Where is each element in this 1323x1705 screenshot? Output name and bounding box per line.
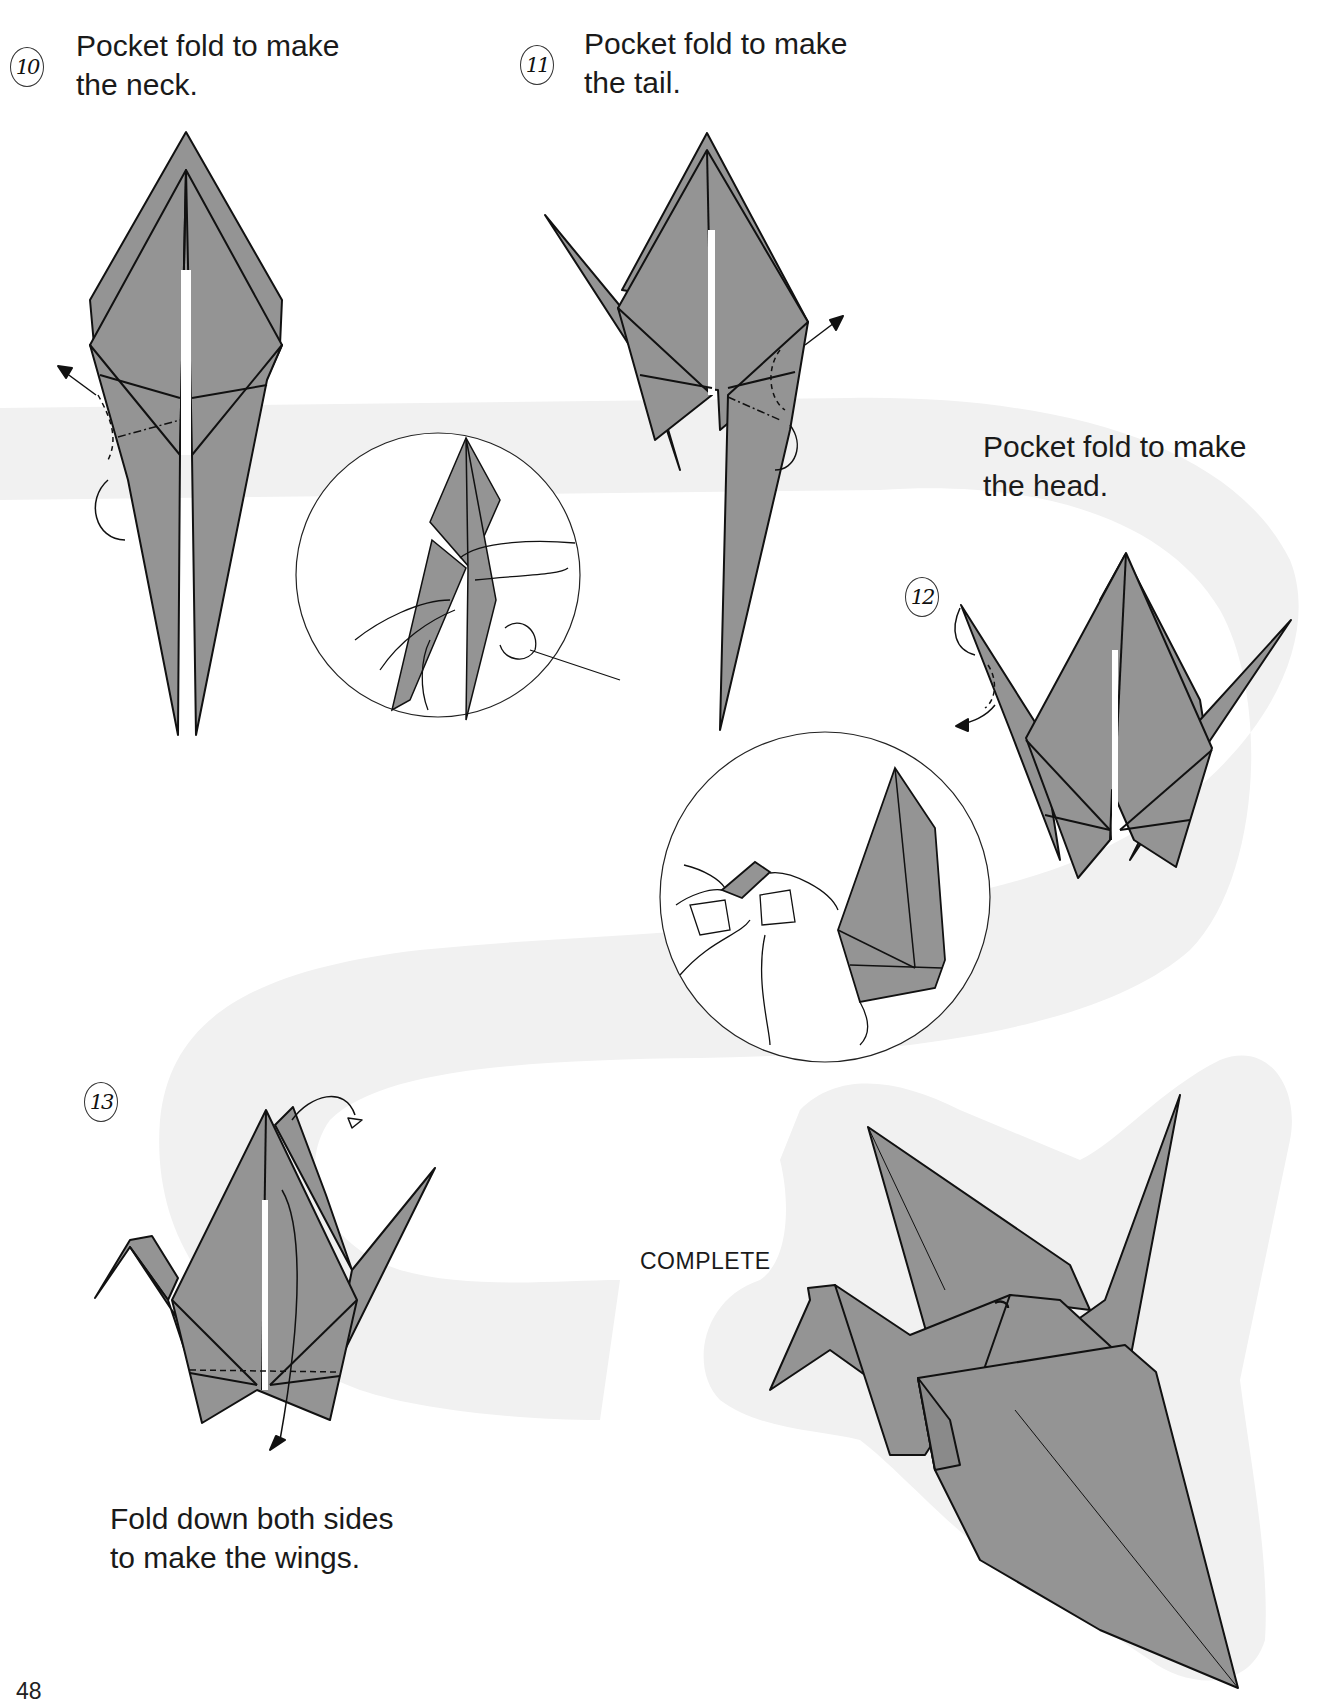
step10-figure <box>58 132 282 735</box>
diagram-layer <box>0 0 1323 1705</box>
step11-figure <box>545 133 843 730</box>
complete-crane-figure <box>770 1095 1238 1688</box>
detail1-hands-figure <box>296 433 620 720</box>
step12-figure <box>955 553 1291 878</box>
detail2-hands-figure <box>660 732 990 1062</box>
step13-figure <box>95 1096 435 1450</box>
